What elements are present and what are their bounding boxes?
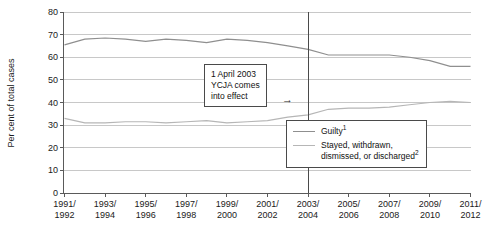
ycja-annotation-line1: 1 April 2003 xyxy=(211,69,260,80)
x-axis-tick-mark xyxy=(308,193,309,197)
x-axis-tick-label-line2: 2002 xyxy=(256,210,279,221)
x-axis-tick-label: 2005/2006 xyxy=(337,199,360,221)
y-axis-tick-label: 30 xyxy=(48,120,58,130)
x-axis-tick-label: 1997/1998 xyxy=(175,199,198,221)
x-axis-tick-label-line1: 1993/ xyxy=(94,199,117,210)
x-axis-tick-mark xyxy=(186,193,187,197)
x-axis-tick-label: 1991/1992 xyxy=(53,199,76,221)
x-axis-tick-mark xyxy=(470,193,471,197)
y-axis-title: Per cent of total cases xyxy=(4,12,18,194)
x-axis-tick-mark xyxy=(64,193,65,197)
legend-item-stayed-withdrawn: Stayed, withdrawn,dismissed, or discharg… xyxy=(293,140,419,162)
x-axis-tick-label-line2: 1994 xyxy=(94,210,117,221)
legend-item-guilty: Guilty1 xyxy=(293,126,419,137)
legend-swatch-stayed-withdrawn xyxy=(293,145,315,146)
legend-label-guilty: Guilty1 xyxy=(321,126,346,137)
x-axis-tick-label-line1: 2009/ xyxy=(419,199,442,210)
legend-footnote-marker-2: 2 xyxy=(415,149,419,156)
x-axis-tick-mark xyxy=(267,193,268,197)
x-axis-tick-label-line2: 1996 xyxy=(134,210,157,221)
x-axis-tick-label-line1: 1999/ xyxy=(216,199,239,210)
y-axis-tick-label: 0 xyxy=(53,188,58,198)
x-axis-tick-label-line1: 1995/ xyxy=(134,199,157,210)
legend-swatch-guilty xyxy=(293,131,315,132)
x-axis-tick-label: 2001/2002 xyxy=(256,199,279,221)
ycja-annotation-line3: into effect xyxy=(211,91,260,102)
ycja-annotation-line2: YCJA comes xyxy=(211,80,260,91)
x-axis-tick-label: 1999/2000 xyxy=(216,199,239,221)
series-line-guilty xyxy=(65,38,471,66)
x-axis-tick-label-line1: 2003/ xyxy=(297,199,320,210)
x-axis-tick-label-line2: 2000 xyxy=(216,210,239,221)
y-axis-tick-label: 50 xyxy=(48,75,58,85)
x-axis-tick-label: 2009/2010 xyxy=(419,199,442,221)
x-axis-tick-label: 1995/1996 xyxy=(134,199,157,221)
x-axis-tick-label: 2007/2008 xyxy=(378,199,401,221)
x-axis-tick-mark xyxy=(429,193,430,197)
x-axis-tick-label-line2: 2006 xyxy=(337,210,360,221)
x-axis-tick-label-line2: 2008 xyxy=(378,210,401,221)
ycja-annotation-box: 1 April 2003YCJA comesinto effect xyxy=(204,64,267,107)
x-axis-tick-label-line2: 1992 xyxy=(53,210,76,221)
x-axis-tick-mark xyxy=(145,193,146,197)
x-axis-tick-label-line1: 1997/ xyxy=(175,199,198,210)
legend-label-line2: dismissed, or discharged2 xyxy=(321,151,419,162)
x-axis-tick-label-line1: 2007/ xyxy=(378,199,401,210)
y-axis-tick-label: 70 xyxy=(48,30,58,40)
x-axis-tick-mark xyxy=(105,193,106,197)
y-axis-tick-label: 20 xyxy=(48,143,58,153)
x-axis-tick-label-line2: 1998 xyxy=(175,210,198,221)
y-axis-tick-label: 80 xyxy=(48,7,58,17)
legend-label-stayed-withdrawn: Stayed, withdrawn,dismissed, or discharg… xyxy=(321,140,419,162)
x-axis-tick-label-line2: 2004 xyxy=(297,210,320,221)
x-axis-tick-mark xyxy=(226,193,227,197)
x-axis-tick-label-line2: 2012 xyxy=(460,210,482,221)
x-axis-tick-label: 2011/2012 xyxy=(460,199,482,221)
y-axis-tick-label: 10 xyxy=(48,165,58,175)
x-axis-tick-label: 1993/1994 xyxy=(94,199,117,221)
x-axis-tick-label-line2: 2010 xyxy=(419,210,442,221)
x-axis-tick-mark xyxy=(389,193,390,197)
legend-label-line1: Stayed, withdrawn, xyxy=(321,140,419,151)
y-axis-tick-label: 40 xyxy=(48,98,58,108)
x-axis-tick-label-line1: 2001/ xyxy=(256,199,279,210)
plot-area: 010203040506070801991/19921993/19941995/… xyxy=(63,12,471,194)
x-axis-tick-label-line1: 2011/ xyxy=(460,199,482,210)
legend-footnote-marker-1: 1 xyxy=(343,124,347,131)
y-axis-tick-label: 60 xyxy=(48,52,58,62)
ycja-annotation-arrow-icon: → xyxy=(282,94,293,104)
x-axis-tick-label: 2003/2004 xyxy=(297,199,320,221)
legend: Guilty1Stayed, withdrawn,dismissed, or d… xyxy=(286,120,427,168)
x-axis-tick-label-line1: 1991/ xyxy=(53,199,76,210)
x-axis-tick-mark xyxy=(348,193,349,197)
x-axis-tick-label-line1: 2005/ xyxy=(337,199,360,210)
chart-container: Per cent of total cases 0102030405060708… xyxy=(0,0,495,238)
